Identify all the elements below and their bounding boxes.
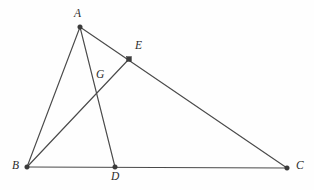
label-point-d: D — [111, 171, 119, 183]
segment-be — [27, 59, 129, 167]
cevians — [27, 27, 129, 167]
vertex-point-a — [78, 25, 83, 30]
vertex-point-d — [113, 165, 118, 170]
vertex-point-b — [25, 165, 30, 170]
label-point-e: E — [135, 40, 142, 52]
vertex-markers — [25, 25, 290, 171]
label-point-g: G — [96, 69, 104, 81]
geometry-figure: A B C D E G — [0, 0, 314, 190]
label-point-a: A — [74, 8, 81, 20]
label-point-c: C — [296, 160, 304, 172]
label-point-b: B — [12, 160, 19, 172]
vertex-point-c — [285, 166, 290, 171]
geometry-canvas — [0, 0, 314, 190]
segment-ad — [80, 27, 115, 167]
segment-ac — [80, 27, 287, 168]
segment-ab — [27, 27, 80, 167]
vertex-point-e — [127, 57, 132, 62]
triangle-sides — [27, 27, 287, 168]
segment-bc — [27, 167, 287, 168]
